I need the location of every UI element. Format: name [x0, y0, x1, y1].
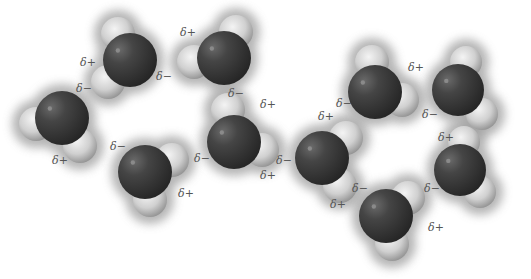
partial-negative-label: δ− — [352, 183, 368, 194]
partial-positive-label: δ+ — [180, 27, 196, 38]
partial-positive-label: δ+ — [318, 111, 334, 122]
oxygen-atom — [359, 189, 413, 243]
oxygen-highlight — [446, 159, 450, 163]
partial-positive-label: δ+ — [428, 222, 444, 233]
oxygen-highlight — [220, 130, 224, 134]
partial-negative-label: δ− — [228, 88, 244, 99]
oxygen-highlight — [372, 204, 376, 208]
partial-negative-label: δ− — [156, 71, 172, 82]
oxygen-highlight — [444, 79, 448, 83]
oxygen-atom — [348, 65, 402, 119]
oxygen-highlight — [308, 146, 312, 150]
partial-negative-label: δ− — [110, 141, 126, 152]
partial-positive-label: δ+ — [260, 99, 276, 110]
partial-negative-label: δ− — [336, 98, 352, 109]
oxygen-atom — [434, 144, 486, 196]
partial-negative-label: δ− — [194, 153, 210, 164]
partial-positive-label: δ+ — [178, 188, 194, 199]
oxygen-atom — [432, 64, 484, 116]
partial-negative-label: δ− — [76, 83, 92, 94]
partial-positive-label: δ+ — [80, 57, 96, 68]
oxygen-atom — [207, 115, 261, 169]
molecule-bodies — [19, 15, 498, 261]
oxygen-atom — [295, 131, 349, 185]
oxygen-highlight — [48, 106, 52, 110]
oxygen-highlight — [361, 80, 365, 84]
oxygen-highlight — [131, 160, 135, 164]
partial-positive-label: δ+ — [438, 132, 454, 143]
partial-negative-label: δ− — [422, 109, 438, 120]
partial-positive-label: δ+ — [408, 62, 424, 73]
water-molecules-diagram: δ−δ+δ+δ−δ+δ−δ+δ−δ+δ−δ+δ+δ−δ+δ+δ−δ−δ+δ−δ−… — [0, 0, 531, 279]
partial-negative-label: δ− — [424, 183, 440, 194]
oxygen-atom — [35, 91, 89, 145]
oxygen-highlight — [116, 48, 120, 52]
partial-positive-label: δ+ — [260, 170, 276, 181]
partial-positive-label: δ+ — [330, 199, 346, 210]
oxygen-atom — [118, 145, 172, 199]
partial-positive-label: δ+ — [52, 155, 68, 166]
oxygen-atom — [103, 33, 157, 87]
oxygen-atom — [197, 31, 251, 85]
oxygen-highlight — [210, 46, 214, 50]
partial-negative-label: δ− — [276, 155, 292, 166]
